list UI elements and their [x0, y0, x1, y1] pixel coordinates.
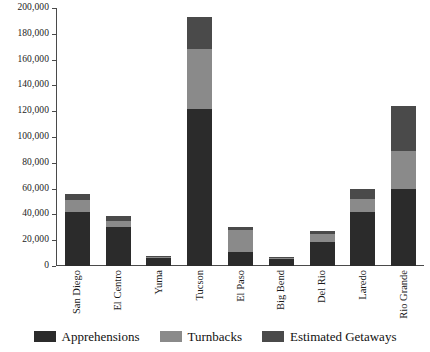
bar-segment[interactable] — [391, 151, 416, 188]
bar-group[interactable] — [220, 8, 261, 266]
y-axis-tick-mark — [52, 137, 56, 138]
plot-area — [56, 8, 424, 266]
bar-segment[interactable] — [187, 109, 212, 266]
legend-item[interactable]: Turnbacks — [160, 330, 242, 343]
y-axis-tick-label: 160,000 — [0, 55, 49, 65]
x-axis-label-cell: Big Bend — [261, 268, 302, 328]
y-axis-tick-mark — [52, 163, 56, 164]
bar-segment[interactable] — [391, 106, 416, 151]
y-axis-tick-label: 120,000 — [0, 106, 49, 116]
bar-stack[interactable] — [65, 194, 90, 266]
bar-segment[interactable] — [187, 49, 212, 108]
bar-segment[interactable] — [350, 212, 375, 266]
bar-segment[interactable] — [391, 189, 416, 266]
bar-segment[interactable] — [269, 259, 294, 266]
y-axis-tick-mark — [52, 8, 56, 9]
legend-label: Turnbacks — [188, 330, 242, 343]
bar-stack[interactable] — [350, 189, 375, 266]
y-axis-tick-mark — [52, 189, 56, 190]
x-axis-label-cell: Yuma — [139, 268, 180, 328]
x-axis-tick-label: San Diego — [72, 270, 83, 314]
x-axis-label-cell: Del Rio — [302, 268, 343, 328]
x-axis-tick-label: El Paso — [235, 270, 246, 302]
x-axis-tick-label: Rio Grande — [398, 270, 409, 319]
bar-group[interactable] — [57, 8, 98, 266]
x-axis-label-cell: San Diego — [57, 268, 98, 328]
bar-segment[interactable] — [350, 199, 375, 212]
bar-segment[interactable] — [187, 17, 212, 49]
legend-item[interactable]: Apprehensions — [34, 330, 140, 343]
bar-group[interactable] — [179, 8, 220, 266]
x-axis-tick-label: El Centro — [113, 270, 124, 311]
bar-segment[interactable] — [228, 252, 253, 266]
bar-stack[interactable] — [269, 257, 294, 266]
x-axis-tick-label: Laredo — [358, 270, 369, 300]
y-axis-tick-label: 20,000 — [0, 235, 49, 245]
y-axis-tick-label: 40,000 — [0, 210, 49, 220]
bar-segment[interactable] — [310, 242, 335, 267]
legend-label: Apprehensions — [62, 330, 140, 343]
y-axis-tick-label: 180,000 — [0, 29, 49, 39]
bar-segment[interactable] — [65, 212, 90, 266]
legend-item[interactable]: Estimated Getaways — [262, 330, 397, 343]
x-axis-label-cell: Tucson — [179, 268, 220, 328]
bar-group[interactable] — [383, 8, 424, 266]
bar-stack[interactable] — [146, 256, 171, 266]
bar-stack[interactable] — [391, 106, 416, 266]
bar-stack[interactable] — [310, 231, 335, 266]
y-axis-tick-mark — [52, 34, 56, 35]
bar-stack[interactable] — [106, 216, 131, 266]
y-axis-tick-mark — [52, 111, 56, 112]
bar-group[interactable] — [139, 8, 180, 266]
bar-segment[interactable] — [228, 230, 253, 252]
x-axis-label-cell: El Centro — [98, 268, 139, 328]
x-axis-label-cell: Rio Grande — [383, 268, 424, 328]
bar-group[interactable] — [98, 8, 139, 266]
bar-segment[interactable] — [350, 189, 375, 199]
bar-group[interactable] — [342, 8, 383, 266]
y-axis-tick-label: 140,000 — [0, 81, 49, 91]
legend-label: Estimated Getaways — [290, 330, 397, 343]
bar-segment[interactable] — [146, 258, 171, 266]
stacked-bar-chart: 020,00040,00060,00080,000100,000120,0001… — [0, 0, 430, 352]
y-axis-tick-label: 100,000 — [0, 132, 49, 142]
bars-layer — [57, 8, 424, 266]
x-axis-tick-label: Del Rio — [317, 270, 328, 303]
x-axis-label-cell: El Paso — [220, 268, 261, 328]
y-axis-tick-label: 60,000 — [0, 184, 49, 194]
bar-group[interactable] — [261, 8, 302, 266]
x-axis-tick-label: Tucson — [194, 270, 205, 301]
y-axis-tick-mark — [52, 85, 56, 86]
y-axis-tick-mark — [52, 60, 56, 61]
bar-group[interactable] — [302, 8, 343, 266]
y-axis-tick-mark — [52, 214, 56, 215]
bar-stack[interactable] — [187, 17, 212, 266]
legend-swatch-icon — [160, 331, 182, 342]
y-axis-tick-mark — [52, 240, 56, 241]
y-axis-tick-label: 200,000 — [0, 3, 49, 13]
bar-segment[interactable] — [106, 227, 131, 266]
bar-stack[interactable] — [228, 227, 253, 266]
chart-legend: ApprehensionsTurnbacksEstimated Getaways — [0, 330, 430, 343]
y-axis-tick-label: 80,000 — [0, 158, 49, 168]
legend-swatch-icon — [262, 331, 284, 342]
x-axis-tick-label: Yuma — [154, 270, 165, 295]
legend-swatch-icon — [34, 331, 56, 342]
y-axis-tick-mark — [52, 266, 56, 267]
bar-segment[interactable] — [65, 200, 90, 212]
x-axis-label-cell: Laredo — [342, 268, 383, 328]
x-axis-tick-labels: San DiegoEl CentroYumaTucsonEl PasoBig B… — [57, 268, 424, 328]
bar-segment[interactable] — [310, 234, 335, 241]
x-axis-tick-label: Big Bend — [276, 270, 287, 310]
y-axis-tick-label: 0 — [0, 261, 49, 271]
